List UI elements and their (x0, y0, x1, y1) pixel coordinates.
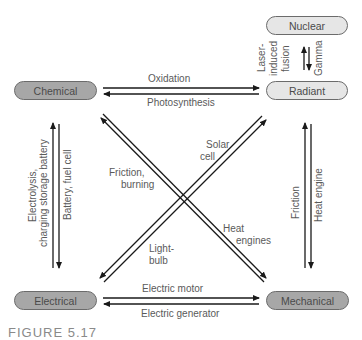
label-electric-motor: Electric motor (142, 283, 203, 294)
label-bulb: bulb (149, 255, 168, 266)
label-laser: Laser- (256, 44, 267, 72)
label-electrolysis: Electrolysis, (27, 169, 38, 222)
label-friction: Friction (290, 186, 301, 219)
node-radiant: Radiant (266, 81, 348, 100)
label-charging-storage-battery: charging storage battery (38, 139, 49, 247)
label-light: Light- (149, 243, 174, 254)
label-burning: burning (121, 179, 154, 190)
label-electric-generator: Electric generator (141, 308, 219, 319)
arrow-friction-burning (101, 118, 264, 282)
arrow-heat-engines (103, 114, 266, 278)
node-chemical: Chemical (14, 81, 97, 100)
node-nuclear: Nuclear (266, 16, 348, 35)
label-battery-fuel-cell: Battery, fuel cell (62, 150, 73, 220)
arrow-solar-cell (104, 120, 266, 282)
label-engines: engines (236, 235, 271, 246)
node-electrical: Electrical (14, 291, 97, 310)
label-heat: Heat (223, 223, 244, 234)
label-gamma: Gamma (313, 40, 324, 76)
label-oxidation: Oxidation (148, 73, 190, 84)
figure-caption: FIGURE 5.17 (8, 325, 97, 340)
label-photosynthesis: Photosynthesis (147, 97, 215, 108)
label-cell: cell (200, 151, 215, 162)
label-solar: Solar (206, 139, 229, 150)
node-mechanical: Mechanical (266, 291, 349, 310)
arrow-light-bulb (100, 116, 262, 278)
label-friction-line1: Friction, (109, 167, 145, 178)
label-induced: induced (268, 41, 279, 76)
label-heat-engine: Heat engine (313, 168, 324, 222)
label-fusion: fusion (280, 45, 291, 72)
